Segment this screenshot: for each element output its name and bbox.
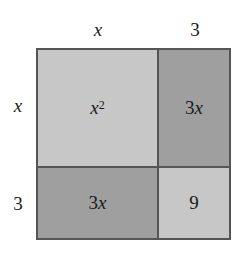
cell-3x-top-right: 3x [159,50,229,168]
cell-9-value: 9 [189,192,199,214]
cell-x-squared-base: x [90,97,98,119]
cell-3x-var: x [98,192,106,214]
side-label-3: 3 [8,194,28,214]
top-label-3: 3 [185,20,205,40]
cell-3x-var: x [195,97,203,119]
cell-x-squared: x2 [38,50,159,168]
top-label-x: x [88,20,108,40]
side-label-x: x [8,96,28,116]
cell-9: 9 [159,168,229,238]
cell-x-squared-exp: 2 [99,98,105,113]
area-model-grid: x2 3x 3x 9 [36,48,231,240]
cell-3x-coef: 3 [89,192,99,214]
cell-3x-coef: 3 [185,97,195,119]
cell-3x-bottom-left: 3x [38,168,159,238]
